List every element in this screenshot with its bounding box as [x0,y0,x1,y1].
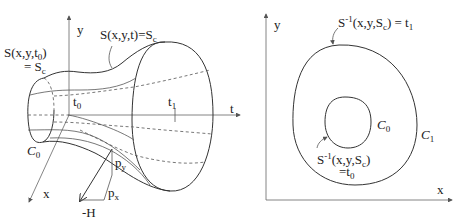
initial-surface-label-line2: = Sc [24,59,46,76]
neg-h-label: -H [82,205,96,220]
right-c1-label: C1 [421,127,434,144]
t0-label: t0 [73,94,82,111]
c0-curve [28,78,54,143]
y-axis-label: y [77,22,84,37]
right-y-axis-label: y [274,17,281,32]
end-ellipse [132,42,213,191]
t-axis-label: t [230,101,234,116]
outer-contour-label: S-1(x,y,Sc) = t1 [338,14,413,32]
c0-contour [325,97,371,148]
x-axis-label: x [43,186,50,201]
right-x-axis-label: x [437,182,444,197]
outer-label-pointer [333,28,338,44]
c0-label: C0 [27,143,41,160]
right-c0-label: C0 [377,117,391,134]
right-panel: y x S-1(x,y,Sc) = t1 S-1(x,y,Sc) =t0 C0 … [266,14,452,200]
t1-label: t1 [168,94,176,111]
surface-label-pointer [109,46,112,68]
figure: y t x S(x,y,t)=Sc S(x,y,t0) = Sc t0 t1 C… [0,0,465,222]
left-panel: y t x S(x,y,t)=Sc S(x,y,t0) = Sc t0 t1 C… [4,16,240,220]
inner-label-pointer [317,137,327,148]
surface-top-contour [44,42,165,78]
surface-label: S(x,y,t)=Sc [100,27,157,44]
px-label: px [108,185,120,202]
py-label: py [115,155,127,172]
